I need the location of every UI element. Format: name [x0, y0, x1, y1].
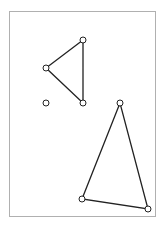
vertex-point [43, 100, 49, 106]
triangle-lower [82, 103, 148, 209]
vertex-point [80, 100, 86, 106]
vertex-point [117, 100, 123, 106]
vertex-point [79, 196, 85, 202]
triangle-upper [46, 40, 83, 103]
vertex-point [145, 206, 151, 212]
vertex-markers [43, 37, 151, 212]
diagram-canvas [0, 0, 165, 229]
vertex-point [43, 65, 49, 71]
vertex-point [80, 37, 86, 43]
